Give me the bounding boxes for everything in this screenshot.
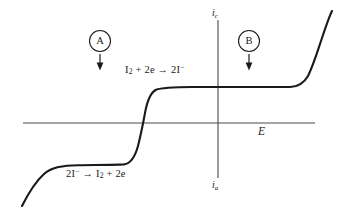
anodic-reactant: 2I xyxy=(66,168,75,179)
cathodic-current-subscript: c xyxy=(215,12,218,20)
potential-axis-label: E xyxy=(258,126,265,138)
cathodic-reaction-label: I2 + 2e → 2I− xyxy=(125,64,185,76)
cathodic-current-axis-label: ic xyxy=(212,8,218,20)
anodic-electrons: + 2e xyxy=(104,168,126,179)
marker-a-label: A xyxy=(90,31,110,51)
marker-b-arrow-head xyxy=(246,63,253,71)
cathodic-electrons: + 2e xyxy=(133,64,158,75)
cathodic-product-superscript: − xyxy=(180,63,184,72)
anodic-reaction-label: 2I− → I2 + 2e xyxy=(66,168,126,180)
anodic-arrow-glyph: → xyxy=(80,168,96,179)
voltammogram-canvas xyxy=(0,0,344,217)
voltammogram-figure: I2 + 2e → 2I− 2I− → I2 + 2e ic ia E A B xyxy=(0,0,344,217)
cathodic-arrow-glyph: → xyxy=(158,64,169,75)
cathodic-product: 2I xyxy=(168,64,180,75)
marker-a-arrow-head xyxy=(97,63,104,71)
marker-b-label: B xyxy=(239,31,259,51)
anodic-current-axis-label: ia xyxy=(212,180,218,192)
anodic-current-subscript: a xyxy=(215,184,219,192)
